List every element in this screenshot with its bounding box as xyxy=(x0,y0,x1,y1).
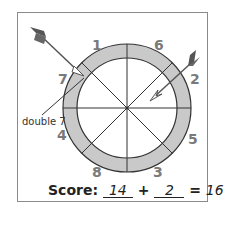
segment-label-4: 4 xyxy=(57,128,67,142)
equals-sign: = xyxy=(189,182,201,198)
segment-label-5: 5 xyxy=(188,132,198,146)
score-second-dart: 2 xyxy=(154,183,184,198)
segment-label-2: 2 xyxy=(190,72,200,86)
plus-sign: + xyxy=(138,182,150,198)
score-total: 16 xyxy=(206,182,224,198)
segment-label-8: 8 xyxy=(92,165,102,179)
score-label: Score: xyxy=(48,182,98,198)
score-line: Score: 14 + 2 = 16 xyxy=(48,183,224,198)
segment-label-7: 7 xyxy=(58,72,68,86)
segment-label-3: 3 xyxy=(153,165,163,179)
segment-label-6: 6 xyxy=(154,38,164,52)
bullseye xyxy=(126,107,129,110)
double-7-annotation: double 7 xyxy=(22,117,66,127)
dart-double-7-icon xyxy=(30,27,84,76)
segment-label-1: 1 xyxy=(92,38,102,52)
score-first-dart: 14 xyxy=(103,183,133,198)
